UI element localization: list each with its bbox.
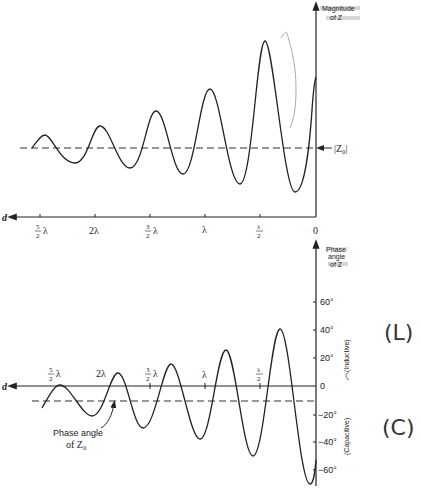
ptick-3-2-num: 3 — [146, 366, 150, 374]
phase-chart — [12, 244, 316, 486]
phase-y-tick-labels: 60° 40° 20° 0 −20° −40° −60° — [318, 297, 337, 475]
tick-2lambda: 2λ — [89, 225, 99, 236]
ptick-5-2-den: 2 — [49, 375, 53, 383]
ytick-60: 60° — [320, 297, 334, 307]
magnitude-y-title: Magnitude of Z — [320, 5, 360, 21]
pencil-annotation-mark — [281, 32, 296, 128]
ytick-neg40: −40° — [318, 437, 337, 447]
tick-3-2-suffix: λ — [153, 225, 158, 236]
magnitude-x-tick-labels: 5 2 λ 2λ 3 2 λ λ λ 2 0 — [35, 223, 318, 240]
magnitude-chart — [12, 6, 332, 217]
capacitive-region-label: (Capacitive) — [343, 418, 351, 455]
z0-phase-label-line1: Phase angle — [53, 428, 103, 438]
magnitude-curve — [32, 41, 316, 192]
phase-title-line1: Phase — [326, 246, 346, 253]
ptick-half-den: 2 — [257, 375, 261, 383]
pencil-bracket-mark — [346, 372, 349, 380]
inductive-region-label: (Inductive) — [343, 339, 351, 372]
handwritten-l-annotation: (L) — [384, 320, 413, 345]
ytick-neg60: −60° — [318, 465, 337, 475]
tick-half-den: 2 — [257, 232, 261, 240]
z0-magnitude-label: |Z₀| — [334, 143, 348, 154]
phase-title-line2: angle — [328, 253, 345, 261]
phase-title-line3: of Z — [330, 261, 343, 268]
ptick-3-2-suffix: λ — [153, 368, 158, 379]
ytick-neg20: −20° — [318, 410, 337, 420]
z0-phase-pointer — [101, 404, 114, 428]
ytick-20: 20° — [320, 353, 334, 363]
magnitude-title-line1: Magnitude — [322, 5, 355, 13]
ptick-5-2-suffix: λ — [56, 368, 61, 379]
handwritten-c-annotation: (C) — [382, 415, 415, 440]
ytick-0: 0 — [320, 381, 325, 391]
ptick-3-2-den: 2 — [146, 375, 150, 383]
tick-zero: 0 — [313, 225, 318, 236]
magnitude-d-axis-label: d — [2, 212, 8, 223]
z0-phase-label-line2: of Z₀ — [66, 439, 87, 450]
phase-curve — [42, 329, 316, 484]
tick-3-2-den: 2 — [146, 232, 150, 240]
tick-5-2-den: 2 — [36, 232, 40, 240]
phase-y-title: Phase angle of Z — [326, 246, 348, 268]
phase-x-tick-labels: 5 2 λ 2λ 3 2 λ λ λ 2 — [48, 366, 263, 383]
tick-lambda: λ — [202, 224, 207, 235]
ptick-half-num: λ — [257, 366, 261, 374]
tick-5-2-num: 5 — [36, 223, 40, 231]
ptick-2lambda: 2λ — [96, 368, 106, 379]
ptick-5-2-num: 5 — [49, 366, 53, 374]
ytick-40: 40° — [320, 325, 334, 335]
phase-d-axis-label: d — [2, 381, 8, 392]
magnitude-title-line2: of Z — [330, 14, 343, 21]
ptick-lambda: λ — [202, 369, 207, 380]
tick-half-num: λ — [257, 223, 261, 231]
tick-3-2-num: 3 — [146, 223, 150, 231]
diagram-canvas: Magnitude of Z |Z₀| d 5 2 λ 2λ 3 2 λ λ λ… — [0, 0, 421, 488]
tick-5-2-suffix: λ — [43, 225, 48, 236]
